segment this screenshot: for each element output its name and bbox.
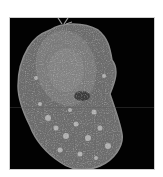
cell-protrusion — [58, 18, 72, 24]
micrograph-panel — [9, 17, 155, 170]
cell-image — [10, 18, 155, 170]
scan-artifact-line — [10, 107, 154, 108]
cell-body — [10, 18, 155, 170]
